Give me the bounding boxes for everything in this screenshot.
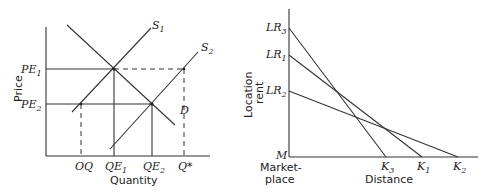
marketplace-label-line2: place [265, 173, 295, 186]
k1-label: K1 [416, 160, 430, 175]
qe1-label: QE1 [105, 160, 127, 175]
s1-label: S1 [152, 19, 165, 34]
demand-curve [67, 25, 175, 125]
s2-label: S2 [201, 41, 214, 56]
diagrams-canvas: S1 S2 D PE1 PE2 Price OQ QE1 QE2 Q* Quan… [0, 0, 496, 195]
qstar-label: Q* [178, 160, 193, 173]
lr2-label: LR2 [265, 84, 287, 99]
qe2-label: QE2 [143, 160, 165, 175]
rent-axis-label: rent [253, 81, 266, 104]
oq-label: OQ [75, 160, 93, 173]
lr1-label: LR1 [265, 48, 287, 63]
price-axis-label: Price [12, 75, 25, 102]
rent-line-2 [289, 91, 458, 157]
demand-label: D [179, 104, 189, 117]
oq-point [80, 103, 83, 106]
qstar-point [183, 68, 186, 71]
distance-axis-label: Distance [365, 173, 413, 186]
supply-demand-diagram: S1 S2 D PE1 PE2 Price OQ QE1 QE2 Q* Quan… [12, 19, 214, 187]
equilibrium-point-2 [150, 102, 153, 105]
supply-curve-2 [110, 52, 198, 149]
equilibrium-point-1 [112, 67, 115, 70]
rent-line-1 [289, 55, 422, 157]
quantity-axis-label: Quantity [110, 174, 158, 187]
k2-label: K2 [452, 160, 466, 175]
location-rent-diagram: LR3 LR1 LR2 Location rent M Market- plac… [242, 9, 478, 186]
lr3-label: LR3 [265, 21, 287, 36]
